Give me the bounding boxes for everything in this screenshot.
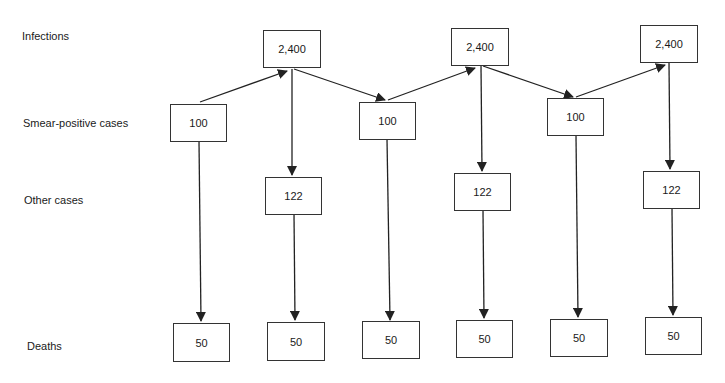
arrow-other3-to-deaths6	[672, 209, 673, 315]
deaths-box-1: 50	[173, 323, 230, 362]
smear-positive-box-2: 100	[359, 102, 416, 140]
infections-box-2: 2,400	[451, 28, 509, 66]
arrow-smear3-to-deaths5	[576, 136, 578, 317]
other-cases-box-1: 122	[265, 177, 322, 215]
deaths-box-6: 50	[645, 317, 702, 355]
deaths-box-3: 50	[362, 321, 420, 359]
other-cases-box-3: 122	[643, 171, 700, 209]
arrow-other1-to-deaths2	[294, 214, 295, 320]
arrow-smear3-to-infections3	[576, 65, 665, 97]
infections-box-3: 2,400	[640, 25, 698, 63]
smear-positive-box-1: 100	[170, 104, 227, 142]
arrow-smear2-to-deaths3	[387, 139, 390, 320]
arrow-infections2-to-other2	[481, 66, 482, 171]
arrow-smear2-to-infections2	[388, 68, 475, 100]
arrow-smear1-to-deaths1	[199, 141, 201, 321]
arrow-other2-to-deaths4	[483, 211, 484, 318]
other-cases-box-2: 122	[454, 173, 511, 211]
infections-box-1: 2,400	[263, 30, 321, 68]
arrow-infections3-to-other3	[669, 63, 670, 169]
deaths-box-5: 50	[550, 319, 608, 357]
smear-positive-box-3: 100	[547, 98, 604, 136]
arrow-smear1-to-infections1	[200, 71, 287, 102]
deaths-box-4: 50	[456, 320, 513, 358]
deaths-box-2: 50	[267, 322, 325, 361]
arrow-infections2-to-smear3	[483, 66, 573, 97]
arrow-infections1-to-smear2	[294, 69, 385, 100]
